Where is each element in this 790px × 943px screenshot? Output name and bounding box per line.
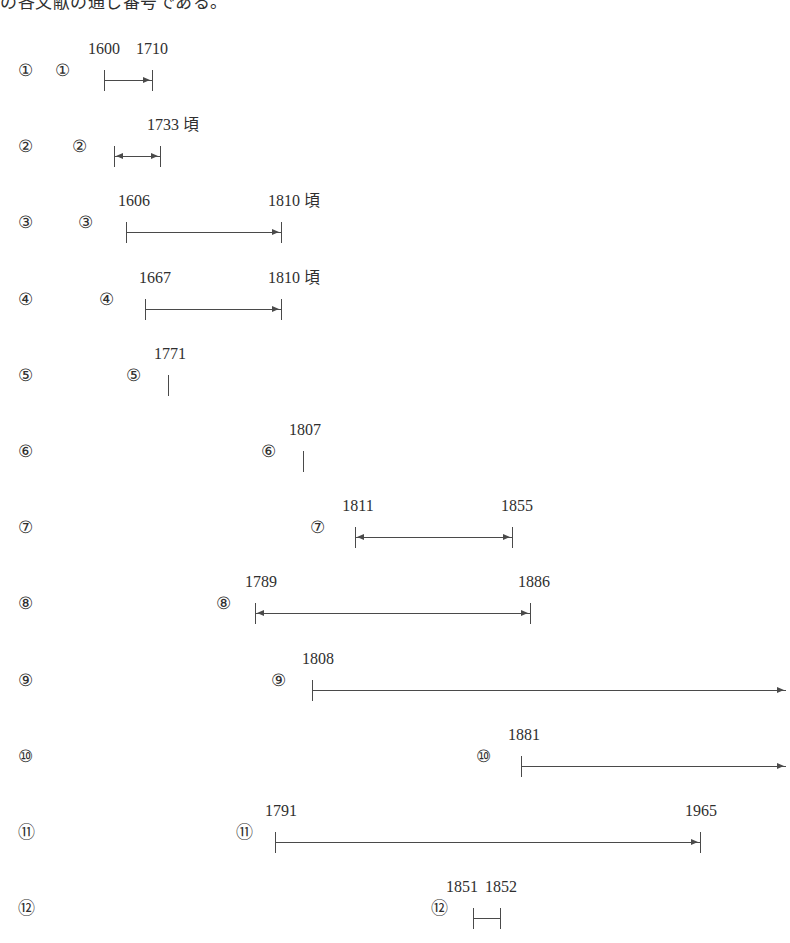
row-index-label: ⑩ — [18, 748, 33, 765]
row-marker-label: ③ — [78, 214, 93, 231]
timeline-row: ⑦⑦18111855 — [0, 494, 790, 570]
range-start-tick — [355, 527, 356, 548]
range-end-tick — [281, 299, 282, 320]
timeline-row: ④④16671810 頃 — [0, 266, 790, 342]
range-start-tick — [145, 299, 146, 320]
timeline-row: ⑥⑥1807 — [0, 418, 790, 494]
year-label: 1886 — [518, 574, 550, 590]
range-start-tick — [114, 146, 115, 167]
range-start-arrowhead — [116, 153, 123, 159]
row-marker-label: ② — [72, 138, 87, 155]
range-start-tick — [104, 70, 105, 91]
range-end-arrowhead — [691, 839, 698, 845]
timeline-diagram: の各文献の通し番号である。 ①①16001710②②1733 頃③③160618… — [0, 0, 790, 943]
row-marker-label: ⑧ — [216, 595, 231, 612]
timeline-row: ③③16061810 頃 — [0, 189, 790, 265]
range-end-tick — [700, 832, 701, 853]
range-end-arrowhead — [272, 306, 279, 312]
timeline-row: ①①16001710 — [0, 37, 790, 113]
range-end-tick — [160, 146, 161, 167]
row-index-label: ⑪ — [18, 824, 35, 841]
range-start-arrowhead — [257, 610, 264, 616]
timeline-row: ②②1733 頃 — [0, 113, 790, 189]
range-start-arrowhead — [357, 534, 364, 540]
range-start-tick — [168, 375, 169, 396]
row-marker-label: ⑥ — [261, 443, 276, 460]
range-line — [126, 232, 281, 233]
range-start-tick — [275, 832, 276, 853]
timeline-row: ⑫⑫18511852 — [0, 875, 790, 943]
range-start-tick — [303, 451, 304, 472]
timeline-row: ⑩⑩1881 — [0, 723, 790, 799]
row-marker-label: ⑨ — [271, 672, 286, 689]
year-label: 1791 — [265, 803, 297, 819]
range-start-tick — [312, 680, 313, 701]
range-end-tick — [281, 222, 282, 243]
timeline-row: ⑪⑪17911965 — [0, 799, 790, 875]
year-label: 1810 頃 — [268, 193, 320, 209]
year-label: 1667 — [139, 270, 171, 286]
year-label: 1710 — [136, 41, 168, 57]
year-label: 1851 — [446, 879, 478, 895]
range-start-tick — [521, 756, 522, 777]
range-end-tick — [512, 527, 513, 548]
timeline-row: ⑤⑤1771 — [0, 342, 790, 418]
row-index-label: ⑧ — [18, 595, 33, 612]
year-label: 1789 — [245, 574, 277, 590]
range-start-tick — [126, 222, 127, 243]
range-line — [145, 309, 281, 310]
row-marker-label: ⑪ — [236, 824, 253, 841]
year-label: 1606 — [118, 193, 150, 209]
range-end-tick — [530, 603, 531, 624]
range-end-arrowhead — [143, 77, 150, 83]
row-marker-label: ⑩ — [476, 748, 491, 765]
range-end-arrowhead — [521, 610, 528, 616]
range-end-arrowhead — [777, 687, 784, 693]
row-index-label: ⑨ — [18, 672, 33, 689]
row-marker-label: ⑦ — [310, 519, 325, 536]
range-line — [275, 842, 700, 843]
range-end-arrowhead — [151, 153, 158, 159]
range-line — [255, 613, 530, 614]
year-label: 1852 — [485, 879, 517, 895]
range-end-arrowhead — [777, 763, 784, 769]
row-marker-label: ① — [55, 62, 70, 79]
timeline-row: ⑧⑧17891886 — [0, 570, 790, 646]
year-label: 1881 — [508, 727, 540, 743]
year-label: 1965 — [685, 803, 717, 819]
year-label: 1810 頃 — [268, 270, 320, 286]
year-label: 1855 — [501, 498, 533, 514]
range-start-tick — [473, 908, 474, 929]
row-marker-label: ⑫ — [431, 900, 448, 917]
row-index-label: ⑥ — [18, 443, 33, 460]
range-line — [355, 537, 512, 538]
range-line — [473, 918, 500, 919]
year-label: 1733 頃 — [147, 117, 199, 133]
row-index-label: ② — [18, 138, 33, 155]
row-index-label: ④ — [18, 291, 33, 308]
row-marker-label: ④ — [99, 291, 114, 308]
range-line — [521, 766, 786, 767]
range-end-tick — [152, 70, 153, 91]
row-index-label: ⑤ — [18, 367, 33, 384]
timeline-row: ⑨⑨1808 — [0, 647, 790, 723]
row-index-label: ⑦ — [18, 519, 33, 536]
row-index-label: ③ — [18, 214, 33, 231]
row-index-label: ⑫ — [18, 900, 35, 917]
range-start-tick — [255, 603, 256, 624]
year-label: 1807 — [289, 422, 321, 438]
range-end-arrowhead — [503, 534, 510, 540]
year-label: 1811 — [342, 498, 373, 514]
range-end-arrowhead — [272, 229, 279, 235]
range-end-tick — [500, 908, 501, 929]
row-marker-label: ⑤ — [126, 367, 141, 384]
range-line — [312, 690, 786, 691]
year-label: 1600 — [88, 41, 120, 57]
year-label: 1771 — [154, 346, 186, 362]
year-label: 1808 — [302, 651, 334, 667]
page-caption: の各文献の通し番号である。 — [0, 0, 228, 13]
row-index-label: ① — [18, 62, 33, 79]
